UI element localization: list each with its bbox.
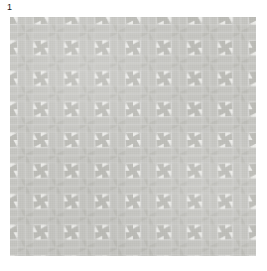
figure-root: 1 bbox=[0, 0, 267, 271]
fabric-swatch-pattern bbox=[10, 17, 256, 256]
fabric-swatch bbox=[10, 17, 256, 256]
figure-number-label: 1 bbox=[7, 2, 12, 13]
